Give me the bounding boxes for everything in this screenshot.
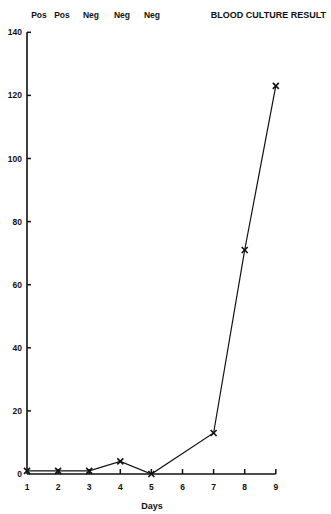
culture-result-label: Neg: [114, 10, 130, 20]
y-tick-label: 80: [13, 217, 23, 227]
x-tick-label: 7: [211, 482, 216, 492]
culture-result-label: Neg: [144, 10, 160, 20]
culture-result-label: Pos: [31, 10, 47, 20]
x-tick-label: 6: [180, 482, 185, 492]
y-tick-label: 40: [13, 343, 23, 353]
series-line: [27, 86, 276, 474]
blood-culture-line-chart: PosPosNegNegNeg BLOOD CULTURE RESULT 020…: [0, 0, 331, 514]
y-tick-label: 60: [13, 280, 23, 290]
x-tick-label: 4: [118, 482, 123, 492]
y-tick-label: 0: [17, 469, 22, 479]
x-axis-ticks: 123456789: [25, 469, 279, 492]
y-tick-label: 120: [8, 90, 22, 100]
x-tick-label: 8: [242, 482, 247, 492]
x-tick-label: 5: [149, 482, 154, 492]
chart-title: BLOOD CULTURE RESULT: [211, 10, 327, 20]
blood-culture-result-labels: PosPosNegNegNeg: [31, 10, 160, 20]
culture-result-label: Neg: [83, 10, 99, 20]
x-tick-label: 9: [273, 482, 278, 492]
y-tick-label: 140: [8, 27, 22, 37]
x-axis-label: Days: [141, 501, 163, 511]
y-tick-label: 20: [13, 406, 23, 416]
x-tick-label: 1: [25, 482, 30, 492]
y-tick-label: 100: [8, 154, 22, 164]
x-marker: [117, 458, 123, 464]
chart-axes: [27, 32, 276, 474]
x-tick-label: 3: [87, 482, 92, 492]
x-tick-label: 2: [56, 482, 61, 492]
culture-result-label: Pos: [54, 10, 70, 20]
data-series: [24, 83, 279, 477]
